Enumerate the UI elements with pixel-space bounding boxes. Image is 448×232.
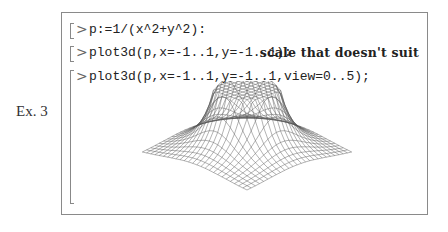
mesh-line [247,114,352,152]
mesh-line [180,89,285,170]
example-label: Ex. 3 [16,103,48,120]
plot3d-output[interactable] [142,81,352,199]
mesh-line [176,92,281,173]
prompt-icon: > [76,68,88,84]
maple-worksheet: > p:=1/(x^2+y^2): > plot3d(p,x=-1..1,y=-… [61,12,428,215]
command-text[interactable]: p:=1/(x^2+y^2): [89,22,206,37]
mesh-line [243,150,348,188]
mesh-line [147,150,252,188]
execution-group-bracket[interactable] [70,70,74,204]
prompt-icon: > [76,44,88,60]
mesh-line [214,92,319,173]
execution-group-bracket[interactable] [70,23,74,39]
annotation-note: scale that doesn't suit [260,45,419,60]
mesh-line [209,89,314,170]
mesh-line [142,114,247,152]
execution-group-bracket[interactable] [70,46,74,62]
prompt-icon: > [76,21,88,37]
